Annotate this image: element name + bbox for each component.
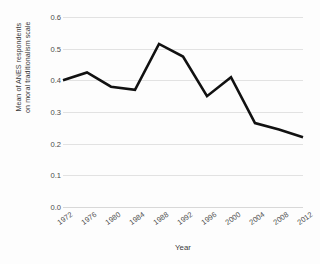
- y-axis-ticks: 0.00.10.20.30.40.50.6: [17, 17, 61, 207]
- series-polyline: [63, 44, 303, 137]
- x-tick-label: 1984: [120, 210, 146, 232]
- y-tick-label: 0.6: [25, 13, 61, 22]
- x-tick-label: 2008: [264, 210, 290, 232]
- chart-container: Mean of ANES respondents on moral tradit…: [0, 0, 320, 264]
- x-tick-label: 1972: [48, 210, 74, 232]
- y-tick-label: 0.3: [25, 108, 61, 117]
- x-tick-label: 1992: [168, 210, 194, 232]
- y-tick-label: 0.1: [25, 171, 61, 180]
- x-tick-label: 2012: [288, 210, 314, 232]
- y-tick-label: 0.2: [25, 140, 61, 149]
- x-axis-title: Year: [63, 243, 303, 252]
- y-tick-label: 0.5: [25, 45, 61, 54]
- line-series: [63, 17, 303, 207]
- x-tick-label: 1988: [144, 210, 170, 232]
- x-tick-label: 1996: [192, 210, 218, 232]
- x-axis-ticks: 1972197619801984198819921996200020042008…: [63, 208, 303, 244]
- x-tick-label: 1976: [72, 210, 98, 232]
- y-tick-label: 0.4: [25, 76, 61, 85]
- x-tick-label: 1980: [96, 210, 122, 232]
- y-tick-label: 0.0: [25, 203, 61, 212]
- x-tick-label: 2000: [216, 210, 242, 232]
- x-tick-label: 2004: [240, 210, 266, 232]
